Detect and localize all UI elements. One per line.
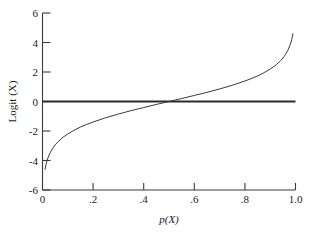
y-tick-label-6: 6 (33, 7, 39, 19)
y-tick-label-neg6: -6 (29, 184, 39, 196)
y-tick-label-neg2: -2 (29, 125, 38, 137)
x-tick-label-0: 0 (40, 193, 46, 205)
x-tick-label-10: 1.0 (289, 193, 303, 205)
chart-background (0, 0, 319, 236)
y-tick-label-0: 0 (33, 96, 39, 108)
y-tick-label-4: 4 (33, 37, 39, 49)
x-axis-title: p(X) (158, 213, 179, 226)
x-tick-label-08: .8 (241, 193, 250, 205)
x-tick-label-02: .2 (89, 193, 97, 205)
y-tick-label-2: 2 (33, 66, 39, 78)
x-tick-label-06: .6 (190, 193, 199, 205)
logit-figure: 6 4 2 0 -2 -4 -6 0 .2 .4 .6 .8 1.0 Logit… (0, 0, 319, 236)
y-axis-title: Logit (X) (6, 80, 19, 122)
y-tick-label-neg4: -4 (29, 155, 39, 167)
logit-chart-canvas: 6 4 2 0 -2 -4 -6 0 .2 .4 .6 .8 1.0 Logit… (0, 0, 319, 236)
x-tick-label-04: .4 (140, 193, 149, 205)
